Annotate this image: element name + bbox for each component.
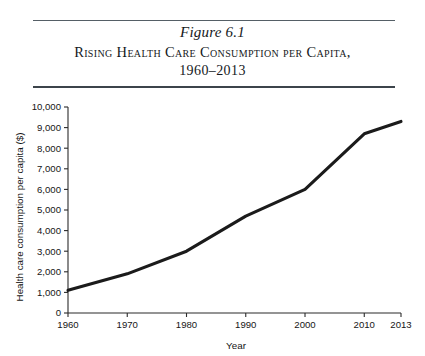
y-tick-label: 7,000 xyxy=(37,163,61,174)
x-axis-title: Year xyxy=(226,340,247,351)
header-rule-bottom xyxy=(33,86,395,88)
figure-title: Rising Health Care Consumption per Capit… xyxy=(0,45,425,61)
x-tick-label: 2010 xyxy=(354,319,375,330)
y-tick-label: 1,000 xyxy=(37,287,61,298)
y-tick-label: 3,000 xyxy=(37,246,61,257)
y-axis-ticks: 01,0002,0003,0004,0005,0006,0007,0008,00… xyxy=(32,101,68,318)
figure-number: Figure 6.1 xyxy=(0,24,425,41)
header-rule-top xyxy=(33,20,395,21)
y-tick-label: 4,000 xyxy=(37,225,61,236)
y-tick-label: 6,000 xyxy=(37,184,61,195)
x-tick-label: 2000 xyxy=(294,319,315,330)
x-tick-label: 2013 xyxy=(390,319,411,330)
data-series-line xyxy=(68,121,401,290)
figure-subtitle: 1960–2013 xyxy=(0,63,425,79)
chart-canvas: Health care consumption per capita ($) 0… xyxy=(0,92,425,356)
x-tick-label: 1990 xyxy=(235,319,256,330)
x-tick-label: 1960 xyxy=(57,319,78,330)
y-tick-label: 5,000 xyxy=(37,204,61,215)
y-tick-label: 0 xyxy=(56,307,61,318)
line-chart: Health care consumption per capita ($) 0… xyxy=(0,92,425,356)
y-tick-label: 2,000 xyxy=(37,266,61,277)
x-tick-label: 1980 xyxy=(176,319,197,330)
y-axis-title: Health care consumption per capita ($) xyxy=(14,133,25,302)
x-tick-label: 1970 xyxy=(117,319,138,330)
y-tick-label: 10,000 xyxy=(32,101,61,112)
y-tick-label: 9,000 xyxy=(37,122,61,133)
y-tick-label: 8,000 xyxy=(37,143,61,154)
x-axis-ticks: 1960197019801990200020102013 xyxy=(57,313,411,330)
